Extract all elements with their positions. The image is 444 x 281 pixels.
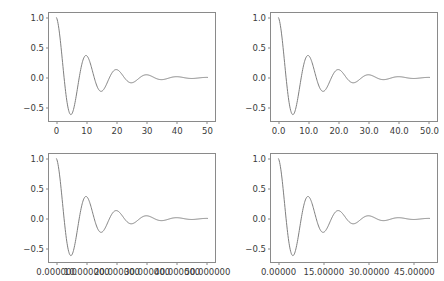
axes-bottom-right: −0.50.00.51.00.0000015.0000030.0000045.0… bbox=[270, 153, 438, 263]
subplot-bottom-left: −0.50.00.51.00.00000010.00000020.0000003… bbox=[0, 141, 222, 281]
x-tick-label: 50 bbox=[202, 127, 213, 136]
x-tick-mark bbox=[278, 262, 279, 265]
x-tick-mark bbox=[56, 121, 57, 124]
y-tick-label: 0.0 bbox=[30, 74, 44, 83]
y-tick-label: −0.5 bbox=[23, 245, 44, 254]
x-tick-mark bbox=[369, 262, 370, 265]
y-tick-mark bbox=[46, 218, 49, 219]
x-tick-label: 30.00000 bbox=[349, 268, 390, 277]
y-tick-mark bbox=[268, 107, 271, 108]
axes-bottom-left: −0.50.00.51.00.00000010.00000020.0000003… bbox=[48, 153, 216, 263]
x-tick-mark bbox=[429, 121, 430, 124]
x-tick-label: 0.0 bbox=[272, 127, 286, 136]
x-tick-mark bbox=[116, 262, 117, 265]
data-series-damped-cosine bbox=[57, 159, 208, 256]
x-tick-mark bbox=[147, 262, 148, 265]
plot-line-bottom-right bbox=[271, 154, 437, 262]
data-series-damped-cosine bbox=[279, 159, 430, 256]
y-tick-label: 1.0 bbox=[30, 14, 44, 23]
x-tick-label: 30.0 bbox=[360, 127, 379, 136]
subplot-top-right: −0.50.00.51.00.010.020.030.040.050.0 bbox=[222, 0, 444, 140]
x-tick-mark bbox=[177, 121, 178, 124]
y-tick-label: 1.0 bbox=[252, 14, 266, 23]
x-tick-label: 10 bbox=[81, 127, 92, 136]
y-tick-label: −0.5 bbox=[23, 104, 44, 113]
x-tick-label: 0 bbox=[54, 127, 59, 136]
y-tick-label: 0.0 bbox=[30, 215, 44, 224]
x-tick-label: 20 bbox=[111, 127, 122, 136]
y-tick-label: 0.5 bbox=[30, 44, 44, 53]
y-tick-label: 0.5 bbox=[252, 44, 266, 53]
y-tick-label: 1.0 bbox=[252, 155, 266, 164]
y-tick-mark bbox=[268, 248, 271, 249]
y-tick-label: 0.5 bbox=[252, 185, 266, 194]
y-tick-mark bbox=[268, 158, 271, 159]
x-tick-mark bbox=[207, 262, 208, 265]
x-tick-mark bbox=[369, 121, 370, 124]
y-tick-mark bbox=[46, 248, 49, 249]
x-tick-mark bbox=[414, 262, 415, 265]
plot-line-top-right bbox=[271, 13, 437, 121]
y-tick-mark bbox=[46, 47, 49, 48]
y-tick-label: −0.5 bbox=[245, 245, 266, 254]
y-tick-mark bbox=[268, 188, 271, 189]
plot-line-bottom-left bbox=[49, 154, 215, 262]
y-tick-mark bbox=[268, 17, 271, 18]
x-tick-mark bbox=[56, 262, 57, 265]
plot-line-top-left bbox=[49, 13, 215, 121]
y-tick-mark bbox=[268, 218, 271, 219]
x-tick-mark bbox=[338, 121, 339, 124]
x-tick-label: 45.00000 bbox=[394, 268, 435, 277]
subplot-bottom-right: −0.50.00.51.00.0000015.0000030.0000045.0… bbox=[222, 141, 444, 281]
y-tick-label: 1.0 bbox=[30, 155, 44, 164]
x-tick-mark bbox=[399, 121, 400, 124]
x-tick-label: 20.0 bbox=[329, 127, 348, 136]
x-tick-mark bbox=[86, 262, 87, 265]
x-tick-mark bbox=[308, 121, 309, 124]
subplot-top-left: −0.50.00.51.001020304050 bbox=[0, 0, 222, 140]
x-tick-mark bbox=[86, 121, 87, 124]
x-tick-mark bbox=[147, 121, 148, 124]
x-tick-label: 10.0 bbox=[299, 127, 318, 136]
y-tick-label: 0.0 bbox=[252, 215, 266, 224]
x-tick-label: 0.00000 bbox=[261, 268, 296, 277]
x-tick-mark bbox=[207, 121, 208, 124]
x-tick-label: 15.00000 bbox=[304, 268, 345, 277]
x-tick-label: 30 bbox=[142, 127, 153, 136]
y-tick-label: 0.5 bbox=[30, 185, 44, 194]
axes-top-right: −0.50.00.51.00.010.020.030.040.050.0 bbox=[270, 12, 438, 122]
x-tick-mark bbox=[116, 121, 117, 124]
y-tick-mark bbox=[46, 158, 49, 159]
figure-canvas: −0.50.00.51.001020304050 −0.50.00.51.00.… bbox=[0, 0, 444, 281]
data-series-damped-cosine bbox=[57, 18, 208, 115]
data-series-damped-cosine bbox=[279, 18, 430, 115]
y-tick-mark bbox=[46, 107, 49, 108]
x-tick-mark bbox=[323, 262, 324, 265]
axes-top-left: −0.50.00.51.001020304050 bbox=[48, 12, 216, 122]
y-tick-mark bbox=[46, 17, 49, 18]
y-tick-mark bbox=[268, 77, 271, 78]
x-tick-mark bbox=[278, 121, 279, 124]
x-tick-mark bbox=[177, 262, 178, 265]
y-tick-label: 0.0 bbox=[252, 74, 266, 83]
y-tick-mark bbox=[46, 77, 49, 78]
y-tick-mark bbox=[46, 188, 49, 189]
x-tick-label: 40 bbox=[172, 127, 183, 136]
y-tick-label: −0.5 bbox=[245, 104, 266, 113]
x-tick-label: 40.0 bbox=[390, 127, 409, 136]
x-tick-label: 50.0 bbox=[420, 127, 439, 136]
y-tick-mark bbox=[268, 47, 271, 48]
